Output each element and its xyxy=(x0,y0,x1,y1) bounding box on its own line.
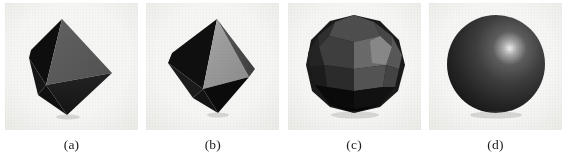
panel-caption-d: (d) xyxy=(487,138,503,152)
figure-panel-a: (a) xyxy=(5,3,138,152)
figure-panel-row: (a) xyxy=(0,0,566,160)
image-plate-b xyxy=(146,3,279,130)
figure-panel-d: (d) xyxy=(429,3,562,152)
figure-panel-c: (c) xyxy=(288,3,421,152)
image-plate-d xyxy=(429,3,562,130)
octahedron-dark-illustration xyxy=(5,3,138,130)
image-plate-c xyxy=(288,3,421,130)
faceted-polyhedron-illustration xyxy=(288,3,421,130)
smooth-sphere-illustration xyxy=(429,3,562,130)
image-plate-a xyxy=(5,3,138,130)
panel-caption-c: (c) xyxy=(346,138,362,152)
figure-panel-b: (b) xyxy=(146,3,279,152)
octahedron-light-illustration xyxy=(146,3,279,130)
panel-caption-a: (a) xyxy=(64,138,80,152)
panel-caption-b: (b) xyxy=(205,138,221,152)
